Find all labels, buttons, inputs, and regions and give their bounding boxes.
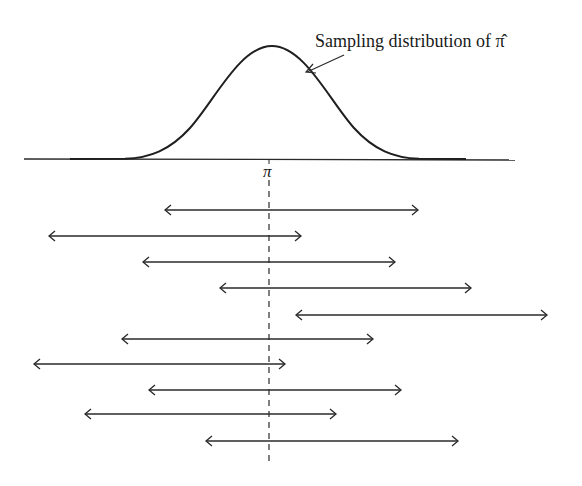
confidence-intervals <box>34 205 547 446</box>
sampling-distribution-curve <box>70 46 466 159</box>
confidence-interval-4 <box>220 283 471 293</box>
confidence-interval-diagram: Sampling distribution of π̂ π <box>0 0 582 486</box>
annotation-pointer-arrow <box>306 55 344 73</box>
confidence-interval-5 <box>296 310 547 320</box>
confidence-interval-8 <box>149 385 401 395</box>
confidence-interval-9 <box>85 409 336 419</box>
sampling-distribution-label: Sampling distribution of π̂ <box>315 31 508 51</box>
confidence-interval-10 <box>206 436 458 446</box>
confidence-interval-1 <box>165 205 418 215</box>
confidence-interval-6 <box>122 334 373 344</box>
confidence-interval-2 <box>49 231 301 241</box>
confidence-interval-7 <box>34 359 285 369</box>
pi-axis-label: π <box>263 162 272 181</box>
